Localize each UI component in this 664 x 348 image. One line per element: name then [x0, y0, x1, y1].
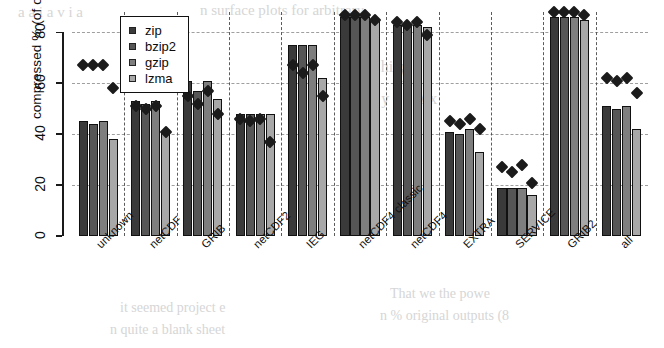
y-tick-mark: [56, 82, 62, 84]
y-tick-label: 40: [32, 120, 48, 146]
bar[interactable]: [246, 114, 255, 236]
group-separator: [439, 12, 440, 236]
bar[interactable]: [288, 45, 297, 236]
bar[interactable]: [360, 17, 369, 236]
y-tick-label: 20: [32, 171, 48, 197]
bar-group: [550, 12, 589, 236]
x-tick-label: all: [618, 234, 635, 251]
bar[interactable]: [550, 17, 559, 236]
bar[interactable]: [141, 104, 150, 236]
bar[interactable]: [193, 91, 202, 236]
bar[interactable]: [507, 188, 516, 236]
legend-swatch-icon: [129, 43, 136, 50]
bar[interactable]: [570, 17, 579, 236]
legend-item-gzip[interactable]: gzip: [129, 55, 176, 70]
bar[interactable]: [203, 81, 212, 236]
bar[interactable]: [612, 109, 621, 236]
bar[interactable]: [236, 114, 245, 236]
y-tick-label: 60: [32, 69, 48, 95]
legend-swatch-icon: [129, 27, 136, 34]
y-axis-line: [62, 32, 64, 236]
group-separator: [596, 12, 597, 236]
bar[interactable]: [497, 188, 506, 236]
legend-label: gzip: [145, 56, 169, 69]
legend-item-zip[interactable]: zip: [129, 23, 176, 38]
bar[interactable]: [455, 134, 464, 236]
bar[interactable]: [622, 106, 631, 236]
y-tick-mark: [56, 32, 62, 34]
bar-group: [79, 12, 118, 236]
y-tick-label: 0: [32, 222, 48, 248]
legend-label: lzma: [145, 72, 172, 85]
bar[interactable]: [350, 17, 359, 236]
legend-item-bzip2[interactable]: bzip2: [129, 39, 176, 54]
bar-group: [236, 12, 275, 236]
bar[interactable]: [89, 124, 98, 236]
bar[interactable]: [580, 20, 589, 236]
group-separator: [386, 12, 387, 236]
group-separator: [281, 12, 282, 236]
bar[interactable]: [151, 101, 160, 236]
compression-ratio-chart: compressed % (of original) 020406080 unk…: [0, 0, 664, 348]
legend-swatch-icon: [129, 59, 136, 66]
bar[interactable]: [423, 27, 432, 236]
legend-item-lzma[interactable]: lzma: [129, 71, 176, 86]
bar-group: [602, 12, 641, 236]
bar[interactable]: [79, 121, 88, 236]
bar[interactable]: [99, 121, 108, 236]
bar[interactable]: [465, 129, 474, 236]
group-separator: [334, 12, 335, 236]
bar[interactable]: [602, 106, 611, 236]
y-tick-mark: [56, 184, 62, 186]
group-separator: [229, 12, 230, 236]
y-tick-mark: [56, 133, 62, 135]
legend-swatch-icon: [129, 75, 136, 82]
bar[interactable]: [370, 20, 379, 236]
bar[interactable]: [256, 114, 265, 236]
bar-group: [288, 12, 327, 236]
y-tick-label: 80: [32, 18, 48, 44]
bar[interactable]: [340, 17, 349, 236]
group-separator: [491, 12, 492, 236]
bar[interactable]: [632, 129, 641, 236]
legend[interactable]: zipbzip2gziplzma: [120, 16, 189, 93]
bar[interactable]: [560, 17, 569, 236]
group-separator: [543, 12, 544, 236]
y-tick-mark: [56, 235, 62, 237]
bar[interactable]: [413, 25, 422, 236]
bar-group: [497, 12, 536, 236]
legend-label: bzip2: [145, 40, 176, 53]
bar[interactable]: [308, 45, 317, 236]
bar-group: [340, 12, 379, 236]
legend-label: zip: [145, 24, 162, 37]
bar-group: [183, 12, 222, 236]
